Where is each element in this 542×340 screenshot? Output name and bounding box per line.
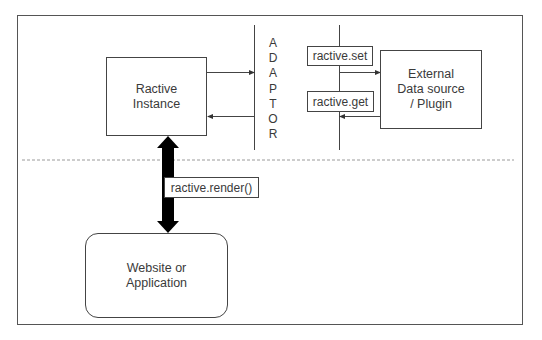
adaptor-letter: D	[269, 51, 278, 66]
ractive-render-label: ractive.render()	[164, 177, 259, 198]
ractive-instance-label-line2: Instance	[133, 97, 180, 112]
website-label-line1: Website or	[126, 261, 187, 276]
website-label-line2: Application	[126, 276, 187, 291]
external-label-line1: External	[397, 67, 464, 82]
adaptor-letter: A	[269, 36, 277, 51]
website-application-node: Website or Application	[85, 233, 228, 318]
adaptor-letter: A	[269, 66, 277, 81]
external-data-source-node: External Data source / Plugin	[380, 50, 482, 129]
ractive-instance-node: Ractive Instance	[106, 57, 207, 136]
ractive-instance-label-line1: Ractive	[133, 82, 180, 97]
adaptor-label: A D A P T O R	[266, 36, 280, 142]
external-label-line3: / Plugin	[397, 97, 464, 112]
adaptor-letter: T	[269, 97, 276, 112]
adaptor-letter: R	[269, 127, 278, 142]
ractive-set-label: ractive.set	[307, 46, 373, 66]
adaptor-letter: O	[268, 112, 277, 127]
external-label-line2: Data source	[397, 82, 464, 97]
ractive-get-label: ractive.get	[307, 91, 374, 112]
adaptor-letter: P	[269, 82, 277, 97]
